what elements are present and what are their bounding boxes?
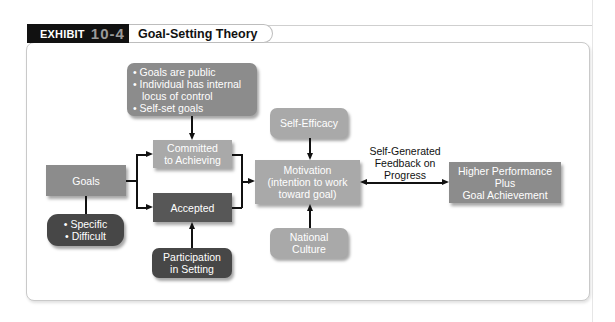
feedback-line-3: Progress (365, 169, 445, 181)
committed-box: Committed to Achieving (153, 140, 232, 168)
outcome-box: Higher Performance Plus Goal Achievement (449, 162, 561, 203)
arrow-down-icon (307, 153, 313, 160)
feedback-line-2: Feedback on (365, 157, 445, 169)
exhibit-label: EXHIBIT (40, 28, 85, 40)
committed-line-1: Committed (167, 142, 218, 154)
connector-factors-committed (191, 116, 193, 134)
national-culture-line-2: Culture (292, 243, 326, 255)
national-culture-box: National Culture (270, 228, 348, 258)
motivation-box: Motivation (intention to work toward goa… (255, 160, 360, 204)
outcome-line-3: Goal Achievement (462, 189, 547, 201)
exhibit-label-tab: EXHIBIT 10-4 (27, 24, 129, 43)
arrow-up-icon (307, 204, 313, 211)
commitment-factors-box: • Goals are public • Individual has inte… (127, 63, 257, 116)
self-efficacy-label: Self-Efficacy (280, 117, 338, 129)
motivation-line-1: Motivation (284, 164, 332, 176)
goal-types-box: • Specific • Difficult (47, 214, 124, 246)
bullet-specific: • Specific (64, 218, 107, 230)
page-edge (592, 0, 593, 322)
feedback-line-1: Self-Generated (365, 145, 445, 157)
bullet-goals-public: • Goals are public (133, 66, 215, 78)
connector-goals-types (85, 196, 87, 214)
participation-box: Participation in Setting (152, 248, 232, 278)
participation-line-2: in Setting (170, 263, 214, 275)
accepted-label: Accepted (171, 202, 215, 214)
outcome-line-2: Plus (495, 177, 515, 189)
arrow-right-icon (442, 179, 449, 185)
bullet-internal-locus-cont: locus of control (133, 90, 213, 102)
feedback-label: Self-Generated Feedback on Progress (365, 145, 445, 181)
exhibit-title: Goal-Setting Theory (138, 27, 257, 41)
arrow-right-icon (146, 204, 153, 210)
arrow-up-icon (189, 222, 195, 229)
connector-efficacy-motivation (309, 138, 311, 154)
committed-line-2: to Achieving (164, 154, 221, 166)
connector-feedback (366, 182, 443, 184)
motivation-line-3: toward goal) (279, 188, 337, 200)
national-culture-line-1: National (290, 231, 329, 243)
motivation-line-2: (intention to work (268, 176, 348, 188)
accepted-box: Accepted (153, 193, 232, 222)
self-efficacy-box: Self-Efficacy (270, 108, 348, 138)
goals-label: Goals (72, 175, 99, 187)
connector-participation-accepted (191, 229, 193, 248)
arrow-right-icon (146, 151, 153, 157)
arrow-down-icon (189, 133, 195, 140)
participation-line-1: Participation (163, 251, 221, 263)
exhibit-number: 10-4 (91, 25, 125, 42)
bullet-difficult: • Difficult (65, 230, 106, 242)
connector-goals-split (136, 154, 138, 208)
bullet-internal-locus: • Individual has internal (133, 78, 241, 90)
exhibit-title-tab: Goal-Setting Theory (129, 24, 273, 43)
goals-box: Goals (46, 165, 126, 196)
outcome-line-1: Higher Performance (458, 165, 552, 177)
arrow-right-icon (248, 178, 255, 184)
bullet-self-set: • Self-set goals (133, 102, 203, 114)
connector-culture-motivation (309, 211, 311, 228)
